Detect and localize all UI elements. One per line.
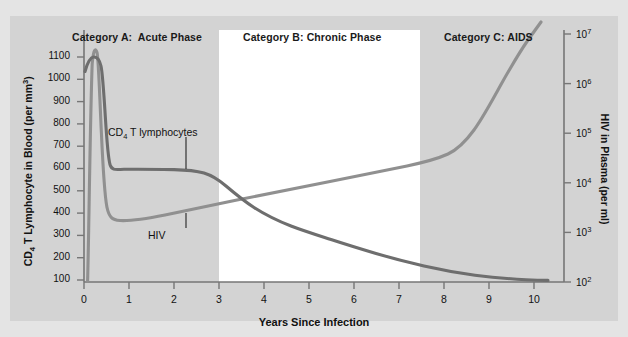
xtick-9: 9 — [479, 293, 499, 305]
xtick-7: 7 — [389, 293, 409, 305]
ytick-left-800: 800 — [36, 117, 70, 128]
ytick-left-200: 200 — [36, 251, 70, 262]
category-b-label: Category B: Chronic Phase — [243, 31, 381, 43]
ytick-left-400: 400 — [36, 206, 70, 217]
y-left-title-mid: T Lymphocyte in Blood (per mm — [22, 84, 34, 247]
y-axis-left-ticks — [77, 57, 84, 280]
ytick-left-300: 300 — [36, 228, 70, 239]
xtick-1: 1 — [119, 293, 139, 305]
ytick-left-600: 600 — [36, 161, 70, 172]
figure-container: Category A: Acute Phase Category B: Chro… — [0, 0, 628, 337]
xtick-6: 6 — [344, 293, 364, 305]
ytick-left-700: 700 — [36, 139, 70, 150]
ytick-right-1e3: 103 — [576, 225, 591, 238]
chart-svg — [0, 0, 628, 337]
y-axis-right-ticks — [564, 34, 571, 282]
ytick-left-1100: 1100 — [36, 50, 70, 61]
ytick-right-1e4: 104 — [576, 176, 591, 189]
xtick-3: 3 — [209, 293, 229, 305]
ytick-left-900: 900 — [36, 95, 70, 106]
x-axis-title: Years Since Infection — [0, 316, 628, 328]
x-axis-ticks — [84, 282, 534, 289]
ytick-left-1000: 1000 — [36, 72, 70, 83]
xtick-0: 0 — [74, 293, 94, 305]
hiv-curve-label: HIV — [148, 229, 166, 241]
y-axis-right-title: HIV in Plasma (per ml) — [599, 44, 611, 294]
xtick-10: 10 — [524, 293, 544, 305]
ytick-left-500: 500 — [36, 184, 70, 195]
cd4-curve-label: CD4 T lymphocytes — [108, 126, 198, 141]
y-left-title-prefix: CD — [22, 251, 34, 266]
ytick-right-1e7: 107 — [576, 27, 591, 40]
xtick-8: 8 — [434, 293, 454, 305]
y-left-title-sup: 3 — [21, 80, 30, 84]
xtick-5: 5 — [299, 293, 319, 305]
ytick-right-1e6: 106 — [576, 77, 591, 90]
category-a-label: Category A: Acute Phase — [72, 31, 202, 43]
ytick-right-1e5: 105 — [576, 126, 591, 139]
cd4-label-suffix: T lymphocytes — [127, 126, 197, 138]
xtick-2: 2 — [164, 293, 184, 305]
y-left-title-suffix: ) — [22, 76, 34, 80]
xtick-4: 4 — [254, 293, 274, 305]
series-hiv-curve — [88, 22, 541, 281]
y-axis-left-title: CD4 T Lymphocyte in Blood (per mm3) — [21, 46, 38, 296]
category-c-label: Category C: AIDS — [444, 31, 533, 43]
y-left-title-sub: 4 — [28, 247, 37, 251]
ytick-left-100: 100 — [36, 273, 70, 284]
ytick-right-1e2: 102 — [576, 275, 591, 288]
series-cd4-curve — [85, 57, 548, 280]
cd4-label-prefix: CD — [108, 126, 123, 138]
